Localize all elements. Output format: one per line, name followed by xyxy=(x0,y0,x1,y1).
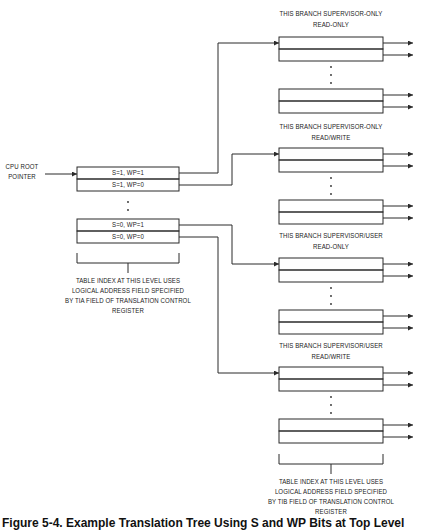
branch1-table-top-row1 xyxy=(279,37,383,49)
root-entry-label: S=1, WP=1 xyxy=(81,168,175,178)
branch3-table-bottom-row1 xyxy=(279,310,383,322)
figure-caption: Figure 5-4. Example Translation Tree Usi… xyxy=(2,516,404,530)
branch1-table-bottom-row1 xyxy=(279,89,383,101)
branch1-table-bottom-row2 xyxy=(279,101,383,113)
branch3-table-top-row1 xyxy=(279,258,383,270)
branch4-table-top-row1 xyxy=(279,367,383,379)
branch4-subtitle: READ/WRITE xyxy=(271,352,391,362)
branch2-table-bottom-row2 xyxy=(279,212,383,224)
branch2-table-top-row2 xyxy=(279,160,383,172)
connector-s0-wp0 xyxy=(179,237,279,373)
branch2-table-bottom-row1 xyxy=(279,200,383,212)
branch3-title: THIS BRANCH SUPERVISOR/USER xyxy=(271,231,391,241)
branch3-table-top-row2 xyxy=(279,270,383,282)
cpu-root-pointer-label-1: CPU ROOT xyxy=(2,162,42,172)
cpu-root-pointer-label-2: POINTER xyxy=(2,172,42,182)
branch4-table-bottom-row1 xyxy=(279,419,383,431)
second-level-bracket xyxy=(279,454,383,474)
root-bracket xyxy=(77,253,179,273)
branch3-table-bottom-row2 xyxy=(279,322,383,334)
connector-s1-wp0 xyxy=(179,154,279,185)
branch4-table-top-row2 xyxy=(279,379,383,391)
root-note-line: LOGICAL ADDRESS FIELD SPECIFIED xyxy=(64,286,193,296)
branch4-title: THIS BRANCH SUPERVISOR/USER xyxy=(271,341,391,351)
root-note-line: BY TIA FIELD OF TRANSLATION CONTROL xyxy=(64,296,193,306)
branch2-table-top-row1 xyxy=(279,148,383,160)
root-entry-label: S=1, WP=0 xyxy=(81,180,175,190)
branch3-subtitle: READ-ONLY xyxy=(271,242,391,252)
branch1-table-top-row2 xyxy=(279,49,383,61)
branch1-title: THIS BRANCH SUPERVISOR-ONLY xyxy=(271,9,391,19)
second-level-note-line: BY TIB FIELD OF TRANSLATION CONTROL xyxy=(267,497,396,507)
branch2-subtitle: READ/WRITE xyxy=(271,133,391,143)
second-level-note-line: LOGICAL ADDRESS FIELD SPECIFIED xyxy=(267,487,396,497)
root-entry-label: S=0, WP=0 xyxy=(81,232,175,242)
branch1-subtitle: READ-ONLY xyxy=(271,20,391,30)
connector-s0-wp1 xyxy=(179,225,279,264)
second-level-note-line: TABLE INDEX AT THIS LEVEL USES xyxy=(267,477,396,487)
root-note-line: REGISTER xyxy=(64,306,193,316)
root-entry-label: S=0, WP=1 xyxy=(81,220,175,230)
root-note-line: TABLE INDEX AT THIS LEVEL USES xyxy=(64,276,193,286)
branch4-table-bottom-row2 xyxy=(279,431,383,443)
branch2-title: THIS BRANCH SUPERVISOR-ONLY xyxy=(271,122,391,132)
